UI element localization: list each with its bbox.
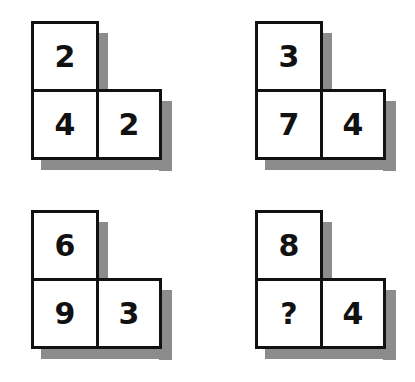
cell-top: 3 <box>255 21 323 92</box>
cell-top: 2 <box>31 21 99 92</box>
cell-top: 8 <box>255 210 323 281</box>
cell-bottom-right: 3 <box>96 278 162 349</box>
l-shape-2: 3 7 4 <box>255 21 400 171</box>
cell-bottom-right: 2 <box>96 89 162 160</box>
l-shape-4: 8 ? 4 <box>255 210 400 360</box>
cell-bottom-left: 9 <box>31 278 99 349</box>
cell-bottom-left: 4 <box>31 89 99 160</box>
cell-bottom-right: 4 <box>320 89 386 160</box>
cell-bottom-right: 4 <box>320 278 386 349</box>
l-shape-1: 2 4 2 <box>31 21 176 171</box>
cell-bottom-left-unknown: ? <box>255 278 323 349</box>
cell-bottom-left: 7 <box>255 89 323 160</box>
cell-top: 6 <box>31 210 99 281</box>
l-shape-3: 6 9 3 <box>31 210 176 360</box>
